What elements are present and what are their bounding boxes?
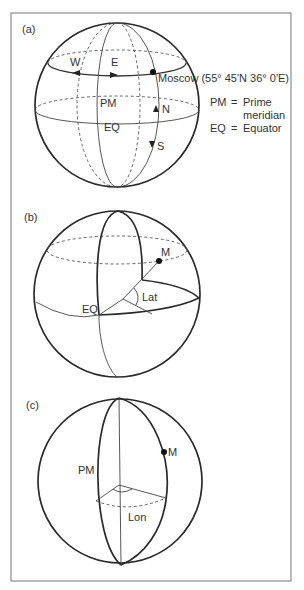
lon-angle-arc [113,489,132,492]
panel-c: (c) M PM Lon [26,398,202,565]
globe-outline [35,23,199,187]
label-m: M [168,446,177,458]
panel-b: (b) M Lat EQ [24,211,200,377]
panel-a-label: (a) [22,23,35,35]
moscow-meridian [117,23,159,187]
panel-a: (a) W E Moscow (55° 45'N 36° 0'E) PM EQ … [22,23,289,187]
label-moscow: Moscow (55° 45'N 36° 0'E) [158,72,289,84]
label-eq: EQ [104,121,120,133]
figure-canvas: (a) W E Moscow (55° 45'N 36° 0'E) PM EQ … [0,0,304,590]
panel-c-label: (c) [26,399,39,411]
label-west: W [70,56,81,68]
equator-arc [96,498,166,507]
prime-meridian [98,398,121,565]
label-lat: Lat [142,291,157,303]
polar-axis [119,398,121,565]
panel-b-label: (b) [24,211,37,223]
lat-angle-arc [134,288,138,305]
legend-eq-abbr: EQ [210,122,226,134]
meridian-lower [99,315,117,377]
point-m [161,449,167,455]
label-m: M [161,246,170,258]
meridian-back-right [117,23,140,187]
label-pm: PM [100,97,117,109]
meridian-back-upper [118,211,142,280]
legend-eq-eq: = [231,122,237,134]
legend-eq-line1: Equator [243,122,282,134]
label-north: N [162,103,170,115]
label-pm: PM [78,464,95,476]
legend-pm-eq: = [231,96,237,108]
arrow-north-icon [153,105,159,112]
label-south: S [157,140,164,152]
legend-pm-line1: Prime [243,96,272,108]
meridian-front-upper [97,211,118,315]
point-m [156,258,162,264]
equator-back [35,96,199,110]
radius-pm [96,485,119,501]
m-meridian [119,398,167,565]
label-lon: Lon [128,511,146,523]
legend: PM = Prime meridian EQ = Equator [210,96,285,134]
legend-pm-abbr: PM [210,96,227,108]
arrow-east-icon [110,72,118,78]
moscow-point [150,69,156,75]
arrow-west-icon [72,70,80,76]
radius-eq [99,299,123,315]
label-east: E [111,56,118,68]
label-eq: EQ [82,303,98,315]
legend-pm-line2: meridian [243,109,285,121]
